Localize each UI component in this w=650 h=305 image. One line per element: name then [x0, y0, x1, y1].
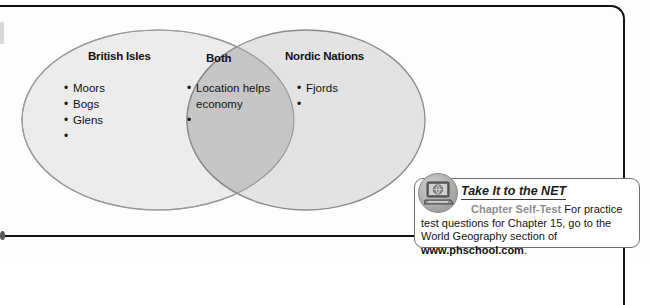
list-item: Moors — [64, 80, 105, 96]
venn-list-both: Location helps economy — [187, 80, 270, 128]
list-item: Location helps — [187, 80, 270, 96]
list-item-continuation: economy — [187, 96, 270, 112]
list-item: Glens — [64, 112, 105, 128]
net-box-period: . — [524, 244, 527, 256]
venn-label-both: Both — [206, 52, 231, 64]
net-box-body: Chapter Self-Test For practice test ques… — [421, 203, 637, 257]
list-item-blank — [187, 112, 270, 128]
list-item-blank — [297, 96, 338, 112]
phschool-website-link[interactable]: www.phschool.com — [421, 244, 524, 256]
venn-label-nordic-nations: Nordic Nations — [285, 50, 364, 62]
net-box-title: Take It to the NET — [461, 184, 566, 200]
chapter-self-test-label: Chapter Self-Test — [471, 203, 561, 215]
list-item: Fjords — [297, 80, 338, 96]
list-item-blank — [64, 128, 105, 144]
venn-label-british-isles: British Isles — [88, 50, 151, 62]
venn-list-nordic-nations: Fjords — [297, 80, 338, 112]
venn-list-british-isles: Moors Bogs Glens — [64, 80, 105, 144]
list-item: Bogs — [64, 96, 105, 112]
